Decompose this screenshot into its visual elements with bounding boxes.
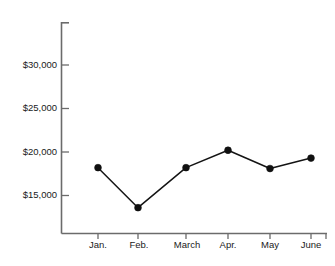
x-tick-label-may: May — [261, 239, 279, 250]
y-tick-label-20000: $20,000 — [23, 146, 57, 157]
data-point — [183, 164, 190, 171]
chart-background — [0, 0, 335, 266]
x-tick-label-feb: Feb. — [129, 239, 148, 250]
x-tick-label-jan: Jan. — [89, 239, 107, 250]
data-point — [225, 147, 232, 154]
y-tick-label-15000: $15,000 — [23, 189, 57, 200]
line-chart: $30,000 $25,000 $20,000 $15,000 Jan. Feb… — [0, 0, 335, 266]
data-point — [135, 204, 142, 211]
x-tick-label-march: March — [174, 239, 200, 250]
data-point — [267, 165, 274, 172]
y-tick-label-30000: $30,000 — [23, 59, 57, 70]
y-tick-label-25000: $25,000 — [23, 102, 57, 113]
x-tick-label-apr: Apr. — [220, 239, 237, 250]
chart-svg: $30,000 $25,000 $20,000 $15,000 Jan. Feb… — [0, 0, 335, 266]
data-point — [308, 155, 315, 162]
data-point — [95, 164, 102, 171]
x-tick-label-june: June — [301, 239, 322, 250]
